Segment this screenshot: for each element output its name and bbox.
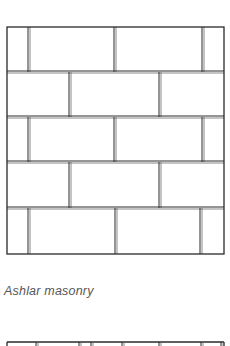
next-masonry-figure-partial [0,330,230,346]
ashlar-masonry-figure [0,0,230,270]
next-masonry-drawing [0,330,230,346]
figure-caption: Ashlar masonry [4,284,94,298]
ashlar-masonry-drawing [0,0,230,270]
